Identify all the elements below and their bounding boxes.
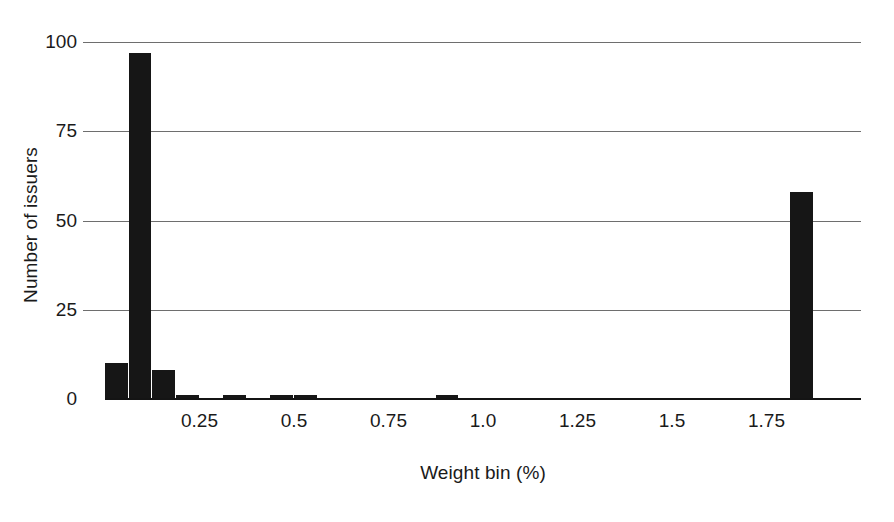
y-axis-tick-label: 50	[56, 210, 77, 232]
bar	[790, 192, 813, 399]
y-axis-tick-label: 25	[56, 299, 77, 321]
x-axis-tick-label: 0.25	[181, 410, 218, 432]
histogram-figure: Number of issuers 0255075100 0.250.50.75…	[0, 0, 894, 522]
y-axis-tick	[83, 131, 105, 132]
x-axis-tick-labels: 0.250.50.751.01.251.51.75	[105, 399, 861, 439]
gridline	[105, 221, 861, 222]
gridline	[105, 310, 861, 311]
x-axis-tick-label: 1.75	[748, 410, 785, 432]
x-axis-title: Weight bin (%)	[105, 462, 861, 484]
y-axis-tick	[83, 310, 105, 311]
x-axis-tick-label: 0.5	[281, 410, 307, 432]
bar	[105, 363, 128, 399]
x-axis-tick-label: 1.25	[559, 410, 596, 432]
y-axis-tick-label: 100	[45, 31, 77, 53]
gridline	[105, 42, 861, 43]
gridline	[105, 131, 861, 132]
y-axis-title: Number of issuers	[14, 5, 48, 445]
bar	[129, 53, 152, 399]
x-axis-tick-label: 1.0	[470, 410, 496, 432]
bar	[152, 370, 175, 399]
y-axis-tick-label: 75	[56, 120, 77, 142]
x-axis-tick-label: 0.75	[370, 410, 407, 432]
y-axis-tick-label: 0	[66, 388, 77, 410]
plot-area: 0255075100	[105, 42, 861, 399]
y-axis-tick	[83, 221, 105, 222]
y-axis-tick	[83, 42, 105, 43]
x-axis-tick-label: 1.5	[659, 410, 685, 432]
